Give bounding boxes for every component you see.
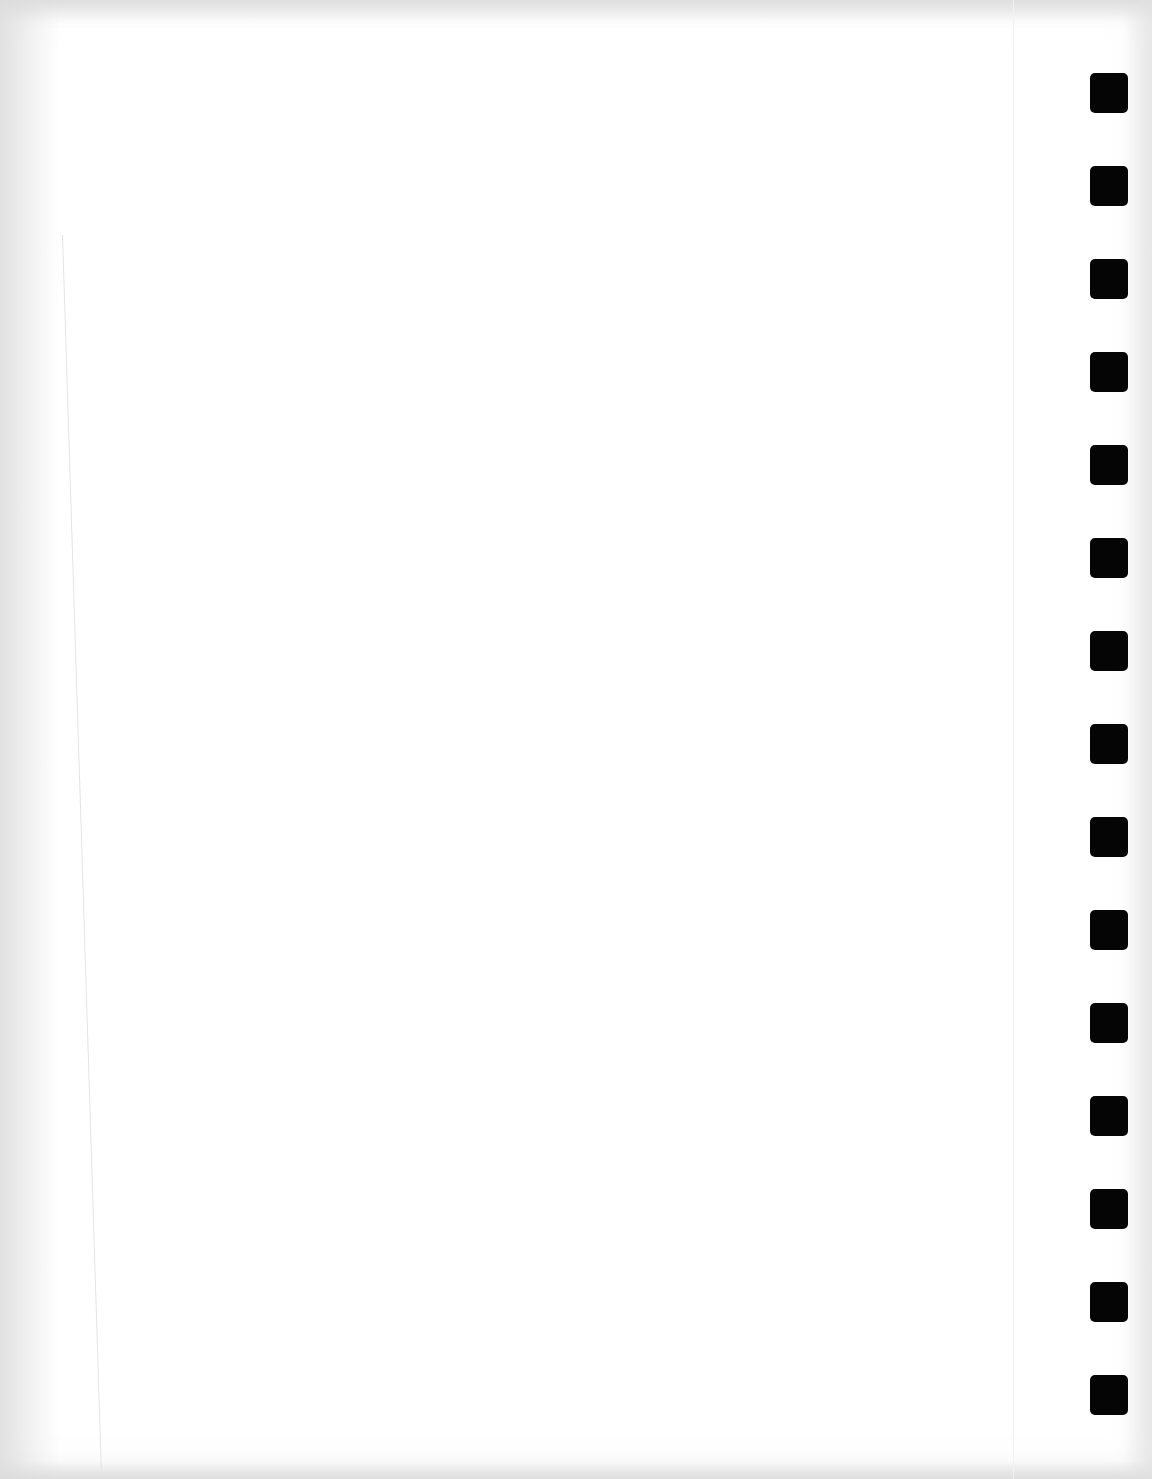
scan-top-edge [0,0,1152,22]
registration-mark [1090,1096,1128,1136]
registration-mark [1090,166,1128,206]
page-right-fold-line [1013,0,1014,1479]
page-fold-line [62,235,102,1478]
registration-mark [1090,910,1128,950]
registration-mark [1090,259,1128,299]
scan-left-edge [0,0,60,1479]
registration-mark [1090,73,1128,113]
registration-mark [1090,1003,1128,1043]
registration-mark [1090,352,1128,392]
registration-mark [1090,445,1128,485]
registration-mark [1090,538,1128,578]
scan-vignette [0,0,1152,1479]
registration-mark [1090,817,1128,857]
registration-mark [1090,1282,1128,1322]
registration-mark [1090,1189,1128,1229]
registration-mark [1090,1375,1128,1415]
registration-mark [1090,631,1128,671]
scan-bottom-edge [0,1461,1152,1479]
registration-mark [1090,724,1128,764]
registration-marks-column [1090,0,1130,1479]
